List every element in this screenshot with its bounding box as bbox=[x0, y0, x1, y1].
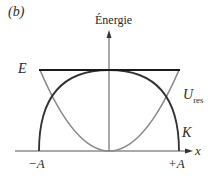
tick-plus-a: +A bbox=[168, 157, 185, 170]
potential-energy-subscript: res bbox=[193, 95, 204, 105]
potential-energy-label: Ures bbox=[183, 88, 204, 105]
y-axis-arrow-icon bbox=[107, 30, 112, 38]
potential-energy-symbol: U bbox=[183, 87, 193, 102]
total-energy-label: E bbox=[18, 62, 27, 76]
tick-minus-a: −A bbox=[28, 157, 45, 170]
panel-label: (b) bbox=[8, 5, 24, 19]
x-axis-label: x bbox=[195, 144, 201, 157]
x-axis-arrow-icon bbox=[185, 149, 193, 154]
kinetic-energy-label: K bbox=[182, 126, 191, 140]
y-axis-label: Énergie bbox=[95, 14, 132, 26]
